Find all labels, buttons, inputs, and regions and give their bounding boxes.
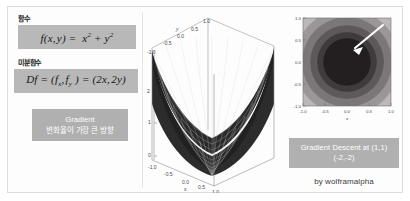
svg-text:0.0: 0.0 xyxy=(344,109,351,114)
y-axis-ticks: -1.0 -0.5 0.0 0.5 1.0 y xyxy=(147,18,210,55)
svg-text:0.0: 0.0 xyxy=(295,60,302,65)
panel-divider xyxy=(142,12,143,188)
contour-bands xyxy=(289,10,401,124)
gradient-callout-box: Gradient 변화율이 가장 큰 방향 xyxy=(32,109,128,141)
svg-text:x: x xyxy=(345,116,349,121)
paraboloid-surface xyxy=(152,36,274,176)
svg-text:-1.0: -1.0 xyxy=(293,104,301,109)
contour-caption-line1: Gradient Descent at (1,1) xyxy=(301,143,388,153)
svg-text:-0.5: -0.5 xyxy=(164,171,173,177)
svg-text:0: 0 xyxy=(148,152,151,158)
svg-text:0.5: 0.5 xyxy=(295,38,302,43)
contour-panel: -1.0 -0.5 0.0 0.5 1.0 x -1.0 -0.5 0.0 0.… xyxy=(289,10,401,192)
contour-plot-svg: -1.0 -0.5 0.0 0.5 1.0 x -1.0 -0.5 0.0 0.… xyxy=(289,10,401,135)
contour-x-ticks: -1.0 -0.5 0.0 0.5 1.0 x xyxy=(299,109,394,121)
contour-caption-box: Gradient Descent at (1,1) (-2,-2) xyxy=(289,138,399,168)
svg-text:-1.0: -1.0 xyxy=(147,49,156,55)
surface-plot-3d: -1.0 -0.5 0.0 0.5 1.0 y 2 1 0 xyxy=(146,8,280,193)
contour-plot: -1.0 -0.5 0.0 0.5 1.0 x -1.0 -0.5 0.0 0.… xyxy=(289,10,401,135)
svg-text:1.0: 1.0 xyxy=(295,16,302,21)
gradient-title: Gradient xyxy=(65,115,95,125)
derivative-equation: Df = (fx, fy ) = (2x, 2y) xyxy=(26,73,126,88)
svg-text:-0.5: -0.5 xyxy=(163,40,172,46)
contour-caption-line2: (-2,-2) xyxy=(333,153,354,163)
svg-text:-0.5: -0.5 xyxy=(321,109,329,114)
svg-text:1: 1 xyxy=(148,119,151,125)
svg-text:1.0: 1.0 xyxy=(388,109,395,114)
function-equation-box: f(x, y) = x2 + y2 xyxy=(18,25,136,49)
surface-plot-svg: -1.0 -0.5 0.0 0.5 1.0 y 2 1 0 xyxy=(146,8,280,193)
formula-panel: 함수 f(x, y) = x2 + y2 미분함수 Df = (fx, fy )… xyxy=(14,14,138,186)
contour-y-ticks: -1.0 -0.5 0.0 0.5 1.0 xyxy=(293,16,301,109)
function-label: 함수 xyxy=(18,14,138,23)
svg-text:-1.0: -1.0 xyxy=(148,164,157,170)
credit-text: by wolframalpha xyxy=(289,177,399,186)
derivative-equation-box: Df = (fx, fy ) = (2x, 2y) xyxy=(14,69,138,93)
function-equation: f(x, y) = x2 + y2 xyxy=(41,31,114,44)
svg-text:1.0: 1.0 xyxy=(203,18,210,24)
svg-text:0.5: 0.5 xyxy=(198,184,205,190)
svg-text:0.0: 0.0 xyxy=(177,33,184,39)
svg-text:y: y xyxy=(175,26,179,32)
svg-text:-0.5: -0.5 xyxy=(293,82,301,87)
svg-text:2: 2 xyxy=(147,88,150,94)
z-axis-ticks: 2 1 0 xyxy=(147,88,151,158)
svg-text:-1.0: -1.0 xyxy=(299,109,307,114)
slide-canvas: 함수 f(x, y) = x2 + y2 미분함수 Df = (fx, fy )… xyxy=(0,0,410,201)
svg-text:1.0: 1.0 xyxy=(212,189,219,193)
svg-text:0.5: 0.5 xyxy=(366,109,373,114)
derivative-label: 미분함수 xyxy=(18,58,138,67)
gradient-subtitle: 변화율이 가장 큰 방향 xyxy=(46,125,114,136)
svg-text:0.5: 0.5 xyxy=(191,26,198,32)
svg-text:0.0: 0.0 xyxy=(182,179,189,185)
svg-text:x: x xyxy=(183,186,187,192)
